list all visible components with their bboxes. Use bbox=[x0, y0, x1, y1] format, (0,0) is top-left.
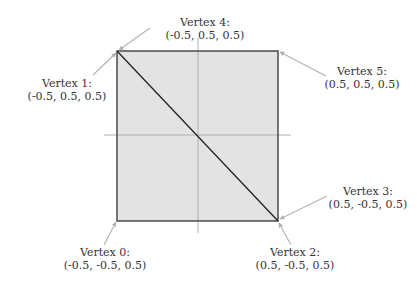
arrow-vertex-1 bbox=[93, 53, 116, 75]
arrow-vertex-5 bbox=[280, 52, 326, 76]
vertex-name: Vertex 2: bbox=[250, 246, 340, 259]
vertex-name: Vertex 5: bbox=[322, 65, 402, 78]
label-vertex-0: Vertex 0: (-0.5, -0.5, 0.5) bbox=[60, 246, 150, 272]
arrow-vertex-4 bbox=[119, 28, 150, 50]
arrow-vertex-0 bbox=[104, 222, 116, 245]
arrow-vertex-3 bbox=[280, 196, 327, 219]
vertex-coords: (-0.5, 0.5, 0.5) bbox=[12, 90, 122, 103]
vertex-name: Vertex 3: bbox=[323, 185, 413, 198]
vertex-coords: (0.5, -0.5, 0.5) bbox=[250, 259, 340, 272]
arrow-vertex-2 bbox=[279, 223, 291, 245]
vertex-name: Vertex 4: bbox=[150, 16, 260, 29]
vertex-coords: (0.5, -0.5, 0.5) bbox=[323, 198, 413, 211]
vertex-coords: (-0.5, 0.5, 0.5) bbox=[150, 29, 260, 42]
label-vertex-4: Vertex 4: (-0.5, 0.5, 0.5) bbox=[150, 16, 260, 42]
label-vertex-3: Vertex 3: (0.5, -0.5, 0.5) bbox=[323, 185, 413, 211]
label-vertex-2: Vertex 2: (0.5, -0.5, 0.5) bbox=[250, 246, 340, 272]
label-vertex-5: Vertex 5: (0.5, 0.5, 0.5) bbox=[322, 65, 402, 91]
vertex-coords: (-0.5, -0.5, 0.5) bbox=[60, 259, 150, 272]
vertex-coords: (0.5, 0.5, 0.5) bbox=[322, 78, 402, 91]
label-vertex-1: Vertex 1: (-0.5, 0.5, 0.5) bbox=[12, 77, 122, 103]
vertex-name: Vertex 1: bbox=[12, 77, 122, 90]
vertex-name: Vertex 0: bbox=[60, 246, 150, 259]
